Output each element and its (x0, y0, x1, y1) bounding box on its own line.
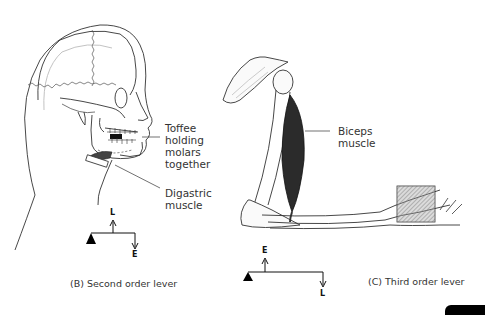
biceps-label-line-2: muscle (338, 137, 376, 149)
panel-c-caption: (C) Third order lever (368, 276, 465, 287)
toffee-label: Toffee holding molars together (165, 122, 210, 170)
biceps-label-line-1: Biceps (338, 125, 376, 137)
toffee-label-line-3: molars (165, 146, 210, 158)
digastric-label-line-2: muscle (165, 199, 212, 211)
toffee-label-line-4: together (165, 158, 210, 170)
biceps-label: Biceps muscle (338, 125, 376, 149)
biceps-muscle-drawing (282, 95, 304, 212)
lever-b-load-letter: L (110, 208, 115, 217)
lever-c-load-letter: L (320, 289, 325, 298)
lever-c-effort-letter: E (262, 246, 267, 255)
second-order-lever-diagram (86, 220, 138, 249)
head-skull-drawing (15, 25, 152, 250)
lever-b-effort-letter: E (132, 250, 137, 259)
panel-b-caption: (B) Second order lever (70, 278, 177, 289)
fulcrum-triangle-c (243, 272, 253, 281)
digastric-label: Digastric muscle (165, 187, 212, 211)
digastric-label-line-1: Digastric (165, 187, 212, 199)
corner-tab-decoration (445, 305, 485, 315)
digastric-leader-line (115, 165, 160, 188)
digastric-muscle-drawing (86, 152, 112, 168)
weight-block (397, 186, 435, 222)
toffee-label-line-2: holding (165, 134, 210, 146)
toffee-label-line-1: Toffee (165, 122, 210, 134)
fulcrum-triangle-b (86, 233, 96, 244)
third-order-lever-diagram (243, 258, 326, 287)
